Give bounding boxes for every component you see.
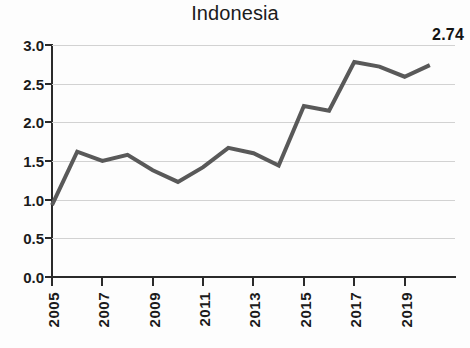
series-line-indonesia (52, 62, 430, 205)
series-line-svg (0, 0, 470, 348)
chart-figure: Indonesia 3.0 2.5 2.0 1.5 1.0 0.5 0.0 20… (0, 0, 470, 348)
end-value-annotation: 2.74 (432, 26, 464, 44)
